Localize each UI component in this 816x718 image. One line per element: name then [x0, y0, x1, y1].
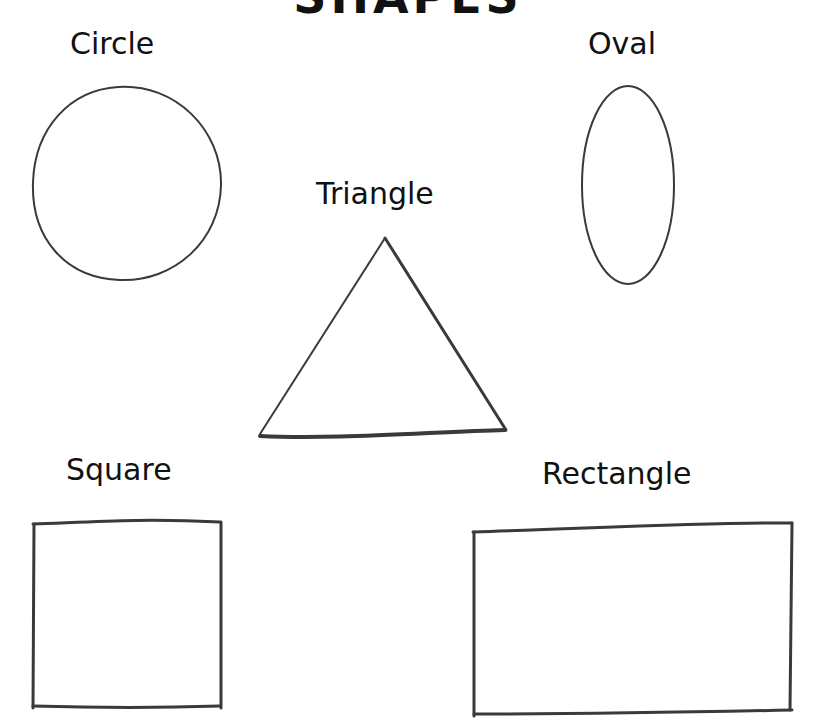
square-shape: [33, 520, 221, 708]
circle-shape: [33, 87, 221, 280]
rectangle-shape: [473, 523, 792, 716]
shapes-drawing: [0, 0, 816, 718]
oval-shape: [582, 86, 674, 284]
triangle-shape: [260, 238, 506, 437]
